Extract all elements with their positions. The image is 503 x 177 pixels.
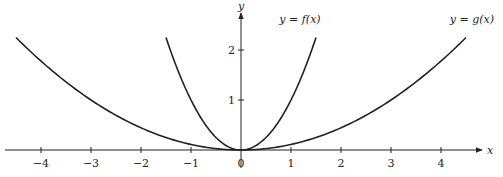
x-tick-label: 2 bbox=[338, 157, 345, 170]
x-axis-label: x bbox=[487, 144, 494, 157]
f-curve-label: y = f(x) bbox=[278, 13, 320, 26]
labels: −4−3−2−10123412xyy = f(x)y = g(x) bbox=[33, 0, 494, 170]
x-tick-label: 0 bbox=[238, 157, 245, 170]
x-tick-label: −4 bbox=[33, 157, 49, 170]
x-tick-label: −1 bbox=[183, 157, 199, 170]
x-tick-label: 4 bbox=[438, 157, 445, 170]
x-tick-label: −2 bbox=[133, 157, 149, 170]
x-tick-label: 3 bbox=[388, 157, 395, 170]
g-curve-label: y = g(x) bbox=[449, 13, 494, 26]
y-tick-label: 1 bbox=[228, 94, 235, 107]
chart: −4−3−2−10123412xyy = f(x)y = g(x) bbox=[0, 0, 503, 177]
y-axis-label: y bbox=[237, 0, 245, 13]
y-tick-label: 2 bbox=[228, 44, 235, 57]
x-tick-label: 1 bbox=[288, 157, 295, 170]
x-tick-label: −3 bbox=[83, 157, 99, 170]
